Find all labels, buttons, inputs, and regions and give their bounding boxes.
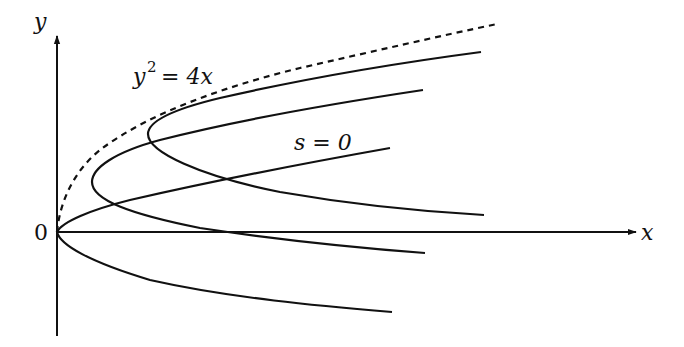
- svg-text:= 4x: = 4x: [154, 64, 213, 89]
- envelope-label: y 2 = 4x: [132, 58, 213, 89]
- parabola-s1: [92, 90, 425, 253]
- origin-label: 0: [34, 220, 48, 245]
- s0-label: s = 0: [294, 130, 352, 155]
- diagram-canvas: y x 0 y 2 = 4x s = 0: [0, 0, 684, 347]
- y-axis-label: y: [33, 9, 47, 34]
- x-axis-label: x: [641, 220, 654, 245]
- parabola-s0: [57, 148, 392, 312]
- svg-text:y: y: [132, 64, 146, 89]
